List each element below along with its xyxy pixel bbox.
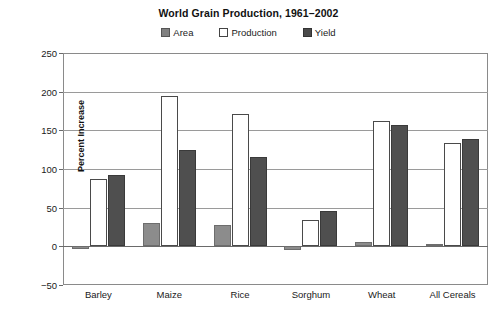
x-tick-label: Sorghum [292,289,331,300]
swatch-production-icon [219,28,228,37]
bar-yield-barley [108,175,125,246]
bar-production-maize [161,96,178,247]
legend-label-yield: Yield [315,27,336,38]
legend-item-production: Production [219,27,276,38]
bar-production-barley [90,179,107,246]
bar-yield-wheat [391,125,408,246]
x-tick-label: Wheat [368,289,395,300]
chart-title: World Grain Production, 1961–2002 [0,7,497,19]
bars-layer [63,53,488,285]
y-tick-mark [59,285,63,286]
legend-label-production: Production [231,27,276,38]
x-tick-label: Barley [85,289,112,300]
plot-area: 250200150100500−50 BarleyMaizeRiceSorghu… [63,53,488,285]
x-tick-label: All Cereals [430,289,476,300]
bar-production-sorghum [302,220,319,246]
bar-production-rice [232,114,249,246]
bar-area-barley [72,246,89,249]
bar-area-sorghum [284,246,301,250]
swatch-area-icon [161,28,170,37]
x-tick-label: Rice [231,289,250,300]
y-tick-label: 100 [41,164,57,175]
chart-legend: Area Production Yield [0,27,497,38]
y-tick-label: 250 [41,48,57,59]
bar-production-all-cereals [444,143,461,247]
bar-area-rice [214,225,231,247]
bar-area-all-cereals [426,244,443,246]
legend-item-yield: Yield [303,27,336,38]
y-axis-title: Percent Increase [76,76,86,196]
bar-yield-maize [179,150,196,246]
y-tick-label: 50 [46,202,57,213]
bar-yield-all-cereals [462,139,479,246]
swatch-yield-icon [303,28,312,37]
bar-area-wheat [355,242,372,246]
grain-production-bar-chart: World Grain Production, 1961–2002 Area P… [0,0,497,312]
bar-production-wheat [373,121,390,246]
bar-yield-rice [250,157,267,247]
bar-yield-sorghum [320,211,337,247]
y-tick-label: 0 [52,241,57,252]
y-tick-label: 200 [41,86,57,97]
x-tick-label: Maize [157,289,182,300]
legend-label-area: Area [173,27,193,38]
y-tick-label: −50 [41,280,57,291]
legend-item-area: Area [161,27,193,38]
bar-area-maize [143,223,160,246]
y-tick-label: 150 [41,125,57,136]
